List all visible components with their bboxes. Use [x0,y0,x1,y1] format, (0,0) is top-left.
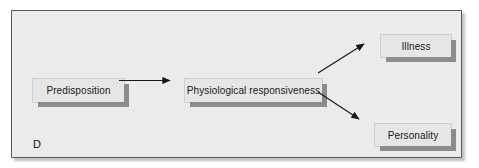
figure-panel: Predisposition Physiological responsiven… [11,10,462,158]
node-personality-label: Personality [388,130,439,141]
node-predisposition-label: Predisposition [46,85,110,96]
figure-panel-label: D [33,138,41,150]
node-illness: Illness [380,34,452,58]
node-predisposition: Predisposition [32,78,125,103]
node-physiological-responsiveness: Physiological responsiveness [184,78,323,103]
node-illness-label: Illness [401,41,430,52]
node-personality: Personality [374,123,452,147]
node-physiological-responsiveness-label: Physiological responsiveness [187,85,320,96]
